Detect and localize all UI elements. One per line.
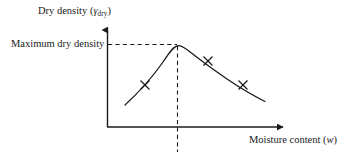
x-axis-title-prefix: Moisture content ( <box>249 134 327 145</box>
y-axis-title: Dry density (γdry) <box>38 5 111 19</box>
y-axis-title-suffix: ) <box>107 5 111 16</box>
x-axis-title-symbol: w <box>327 134 334 145</box>
max-dry-density-label: Maximum dry density <box>11 38 104 50</box>
data-point-marker-1 <box>141 81 150 90</box>
x-axis-title: Moisture content (w) <box>249 134 337 146</box>
compaction-curve-figure: Dry density (γdry) Maximum dry density M… <box>0 0 355 160</box>
y-axis-title-prefix: Dry density ( <box>38 5 93 16</box>
y-axis-title-subscript: dry <box>98 10 108 18</box>
x-axis-title-suffix: ) <box>334 134 338 145</box>
data-point-marker-3 <box>239 81 248 90</box>
data-point-marker-2 <box>204 57 213 66</box>
compaction-curve-path <box>125 46 265 105</box>
